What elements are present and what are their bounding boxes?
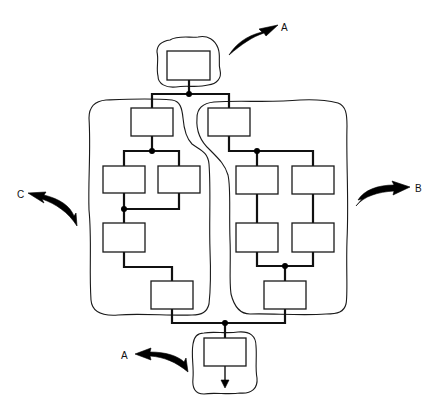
- block-right-1: [208, 108, 250, 136]
- block-left-2a: [103, 166, 145, 193]
- exit-arrow-right-icon: [356, 181, 410, 206]
- junction-dot: [186, 91, 192, 97]
- block-left-4: [151, 281, 193, 309]
- wire-right-split: [229, 136, 257, 151]
- label-top-a: A: [281, 22, 288, 33]
- block-right-3a: [236, 223, 278, 252]
- label-right-b: B: [415, 183, 422, 194]
- block-right-4: [264, 281, 306, 309]
- wire-bottom-bus: [172, 309, 285, 323]
- label-bottom-a: A: [121, 350, 128, 361]
- wire-left-down: [124, 252, 172, 281]
- block-right-2b: [292, 166, 334, 194]
- exit-arrow-left-icon: [28, 192, 77, 226]
- junction-dot: [149, 148, 155, 154]
- junction-dot: [222, 320, 228, 326]
- block-right-2a: [236, 166, 278, 194]
- output-arrowhead-icon: [221, 380, 229, 388]
- block-left-2b: [158, 166, 200, 193]
- block-right-3b: [292, 223, 334, 252]
- block-left-1: [131, 108, 173, 136]
- junction-dot: [254, 148, 260, 154]
- junction-dot: [282, 263, 288, 269]
- exit-arrow-bottom-icon: [135, 348, 188, 372]
- block-top: [167, 51, 210, 80]
- wire-left-merge: [124, 193, 179, 223]
- exit-arrow-top-icon: [229, 25, 278, 55]
- block-bottom: [204, 338, 246, 366]
- wire-right-bus: [257, 151, 313, 166]
- label-left-c: C: [17, 189, 24, 200]
- block-left-3: [103, 223, 145, 252]
- block-diagram: A C B A: [0, 0, 436, 412]
- junction-dot: [121, 206, 127, 212]
